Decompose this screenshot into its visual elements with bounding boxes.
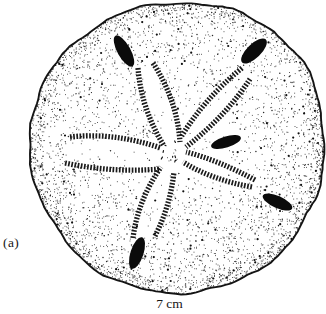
petal-se-row bbox=[186, 152, 255, 180]
pore-spot bbox=[260, 190, 294, 214]
petal-w-row bbox=[65, 163, 160, 170]
pore-spot bbox=[126, 235, 149, 270]
figure-panel: (a) 7 cm bbox=[0, 0, 326, 314]
petaloid-ambulacra bbox=[65, 63, 255, 238]
panel-label: (a) bbox=[3, 235, 19, 251]
petal-nnw-row bbox=[153, 63, 180, 142]
scale-label: 7 cm bbox=[12, 296, 326, 312]
petal-nnw-row bbox=[138, 68, 164, 146]
pore-spot bbox=[237, 35, 270, 68]
petal-s-row bbox=[133, 167, 161, 238]
pore-spot bbox=[210, 132, 243, 152]
petal-s-row bbox=[155, 172, 174, 236]
petal-w-row bbox=[70, 136, 161, 148]
stipple-layer bbox=[31, 4, 324, 293]
sand-dollar-illustration bbox=[0, 0, 326, 314]
